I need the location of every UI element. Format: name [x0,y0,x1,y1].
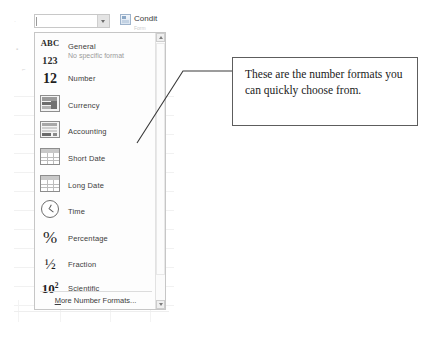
callout-text: These are the number formats you can qui… [245,67,407,98]
format-item-label: Currency [68,101,156,110]
format-item-label: Time [68,207,156,216]
percent-icon: % [43,228,57,247]
format-item-icon: % [35,229,65,247]
number-group-toolbar: Condit Form [34,11,174,33]
format-item-label: Accounting [68,127,156,136]
callout-box: These are the number formats you can qui… [232,57,418,126]
ghost-mark-2: ▪ [16,46,18,52]
format-list-item[interactable]: Currency [35,93,156,117]
fraction-icon: ½ [44,256,55,272]
format-item-icon: ABC123 [35,32,65,68]
format-list-item[interactable]: ½Fraction [35,252,156,276]
time-clock-icon [41,200,59,218]
format-item-icon [35,95,65,116]
accounting-icon [40,121,60,138]
format-item-icon [35,121,65,142]
format-item-icon [35,200,65,222]
number-format-list: ABC123GeneralNo specific format12NumberC… [35,33,156,293]
scientific-icon: 102 [42,281,59,296]
format-item-sublabel: No specific format [68,52,156,59]
format-item-text: Time [65,207,156,216]
dropdown-scrollbar[interactable] [155,33,165,309]
format-item-text: Fraction [65,260,156,269]
format-item-text: Currency [65,101,156,110]
more-number-formats-text: ore Number Formats... [61,296,136,305]
short-date-icon [40,148,60,165]
format-item-label: General [68,42,156,51]
number-12-icon: 12 [43,71,57,86]
format-list-item[interactable]: Accounting [35,119,156,143]
format-item-label: Fraction [68,260,156,269]
format-item-icon [35,175,65,196]
format-item-text: Long Date [65,181,156,190]
worksheet-gridline [14,311,169,312]
conditional-formatting-label: Condit [134,14,157,23]
format-item-icon: 102 [35,279,65,297]
format-item-text: Number [65,74,156,83]
format-list-item[interactable]: Time [35,199,156,223]
format-item-icon [35,148,65,169]
conditional-formatting-button[interactable]: Condit Form [120,11,174,33]
format-item-text: Accounting [65,127,156,136]
format-item-text: Short Date [65,154,156,163]
currency-icon [40,95,60,112]
scrollbar-thumb[interactable] [156,43,165,275]
conditional-formatting-sublabel: Form [134,25,146,31]
format-item-label: Short Date [68,154,156,163]
format-list-item[interactable]: Long Date [35,173,156,197]
number-format-dropdown[interactable]: ABC123GeneralNo specific format12NumberC… [34,32,166,310]
format-item-text: GeneralNo specific format [65,42,156,59]
format-list-item[interactable]: Short Date [35,146,156,170]
scroll-down-arrow-icon[interactable] [156,300,165,309]
format-list-item[interactable]: %Percentage [35,226,156,250]
long-date-icon [40,175,60,192]
format-item-icon: 12 [35,69,65,87]
format-item-text: Percentage [65,234,156,243]
conditional-formatting-icon [120,14,131,25]
format-item-icon: ½ [35,255,65,273]
123-glyph: 123 [42,55,58,66]
ghost-mark-3: ⌐ [22,66,26,72]
more-number-formats-link[interactable]: More Number Formats... [35,296,156,305]
chevron-down-icon[interactable] [97,15,109,27]
scroll-up-arrow-icon[interactable] [156,33,165,42]
format-list-item[interactable]: 12Number [35,66,156,90]
format-item-label: Number [68,74,156,83]
format-item-label: Long Date [68,181,156,190]
format-list-item[interactable]: ABC123GeneralNo specific format [35,37,156,63]
abc-glyph: ABC [41,38,60,48]
dropdown-separator [40,291,152,292]
abc-123-icon: ABC123 [41,32,60,67]
number-format-combo[interactable] [34,14,110,28]
number-format-combo-value[interactable] [36,17,97,26]
format-item-label: Percentage [68,234,156,243]
ghost-mark-1: · [14,18,16,24]
